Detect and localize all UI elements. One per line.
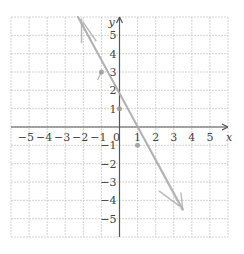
coordinate-graph: −5−4−3−2−1012345−5−4−3−2−112345 x y xyxy=(0,0,244,254)
y-tick-label: 4 xyxy=(110,48,117,61)
y-tick-label: 5 xyxy=(110,29,117,42)
x-axis-label: x xyxy=(226,131,233,144)
y-tick-label: −2 xyxy=(100,158,116,171)
x-tick-label: 4 xyxy=(188,131,195,144)
x-tick-label: 3 xyxy=(170,131,177,144)
drawn-line-overstroke xyxy=(79,17,182,211)
plotted-point xyxy=(135,143,140,148)
y-tick-label: −5 xyxy=(100,213,116,226)
y-tick-label: −3 xyxy=(100,176,116,189)
y-tick-label: −1 xyxy=(100,139,116,152)
x-tick-label: −5 xyxy=(18,131,34,144)
x-tick-label: 5 xyxy=(206,131,213,144)
plotted-point xyxy=(99,70,104,75)
y-axis-label: y xyxy=(108,16,116,29)
axes xyxy=(11,17,228,237)
x-tick-label: −4 xyxy=(36,131,52,144)
x-tick-label: −2 xyxy=(72,131,88,144)
x-tick-label: −3 xyxy=(54,131,70,144)
y-tick-label: 1 xyxy=(110,103,117,116)
hand-drawn-line xyxy=(78,17,183,211)
y-tick-label: −4 xyxy=(100,194,116,207)
plotted-point xyxy=(117,106,122,111)
x-tick-label: 2 xyxy=(152,131,159,144)
